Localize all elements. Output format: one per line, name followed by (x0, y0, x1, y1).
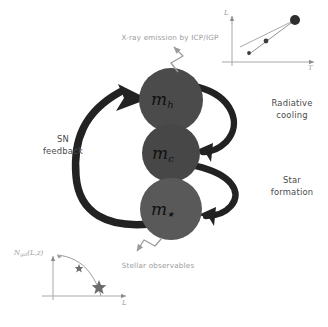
lf-ylabel: Ngal(L,z) (14, 249, 43, 257)
star-formation-arrow (196, 166, 236, 226)
xray-fit-line-2 (248, 20, 295, 55)
chart-xray-inset (222, 15, 314, 66)
lf-xlabel: L (122, 299, 127, 307)
xray-xlabel: T (308, 64, 313, 72)
lf-ylabel-rest: (L,z) (27, 249, 43, 257)
diagram-vector-layer (0, 0, 328, 327)
label-xray-emission: X-ray emission by ICP/IGP (108, 33, 232, 43)
node-hot-gas (139, 68, 203, 132)
xray-data-point (290, 15, 300, 25)
xray-fit-line-1 (240, 20, 295, 47)
lf-curve (57, 255, 101, 296)
label-sn-feedback: SN feedback (28, 133, 98, 157)
node-cold-gas (142, 124, 200, 182)
xray-data-point (264, 39, 269, 44)
stellar-zigzag-arrow (137, 238, 162, 251)
label-star-formation: Star formation (258, 174, 326, 198)
xray-data-point (247, 51, 251, 55)
lf-star-marker (75, 264, 84, 272)
node-stars (140, 178, 202, 240)
diagram-canvas: mh mc m★ Radiative cooling Star formatio… (0, 0, 328, 327)
label-radiative-cooling: Radiative cooling (258, 97, 326, 121)
lf-star-marker (92, 280, 107, 294)
xray-ylabel: L (224, 9, 229, 17)
label-stellar-observables: Stellar observables (108, 261, 208, 271)
